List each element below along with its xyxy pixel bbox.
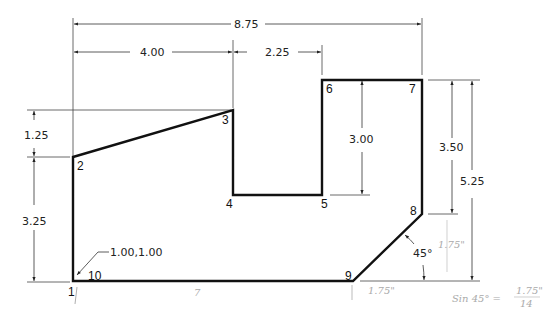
dim-chamfer-angle: 45° <box>413 247 433 260</box>
vertex-label-7: 7 <box>409 82 416 96</box>
vertex-label-4: 4 <box>226 197 233 211</box>
vertex-label-9: 9 <box>345 269 352 283</box>
note-chamfer-vertical: 1.75" <box>438 239 465 250</box>
note-formula-denominator: 14 <box>520 298 533 309</box>
vertex-label-2: 2 <box>77 159 84 173</box>
dim-left-width: 4.00 <box>140 46 165 59</box>
dimension-text: 8.75 4.00 2.25 1.25 3.25 3.00 3.50 5.25 … <box>22 18 485 260</box>
technical-drawing: 8.75 4.00 2.25 1.25 3.25 3.00 3.50 5.25 … <box>0 0 557 323</box>
vertex-label-1: 1 <box>68 285 75 299</box>
vertex-label-6: 6 <box>326 82 333 96</box>
vertex-label-3: 3 <box>222 113 229 127</box>
dimension-lines <box>34 24 472 281</box>
note-formula-numerator: 1.75" <box>516 285 543 296</box>
dim-origin-coordinate: 1.00,1.00 <box>110 246 162 259</box>
note-formula-left: Sin 45° = <box>452 293 501 304</box>
note-chamfer-horizontal: 1.75" <box>368 285 395 296</box>
dim-left-lower-height: 3.25 <box>22 215 47 228</box>
vertex-label-8: 8 <box>410 204 417 218</box>
dim-overall-width: 8.75 <box>234 18 259 31</box>
vertex-labels: 1 2 3 4 5 6 7 8 9 10 <box>68 82 417 299</box>
dim-notch-depth: 3.00 <box>349 133 374 146</box>
vertex-label-10: 10 <box>88 269 102 283</box>
handwritten-notes: 7 1.75" 1.75" Sin 45° = 1.75" 14 <box>75 220 543 309</box>
dim-right-upper-height: 3.50 <box>439 141 464 154</box>
vertex-label-5: 5 <box>321 197 328 211</box>
dim-notch-offset: 2.25 <box>265 46 290 59</box>
dim-overall-height: 5.25 <box>460 175 485 188</box>
dim-left-upper-height: 1.25 <box>24 129 49 142</box>
note-bottom-length: 7 <box>194 287 201 298</box>
